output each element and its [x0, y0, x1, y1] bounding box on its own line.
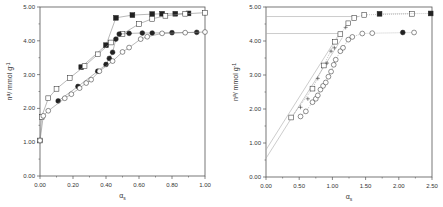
- marker-circle-open: [41, 113, 46, 118]
- series-filled-square: [377, 11, 433, 16]
- marker-square-open: [346, 21, 351, 26]
- marker-circle-open: [203, 30, 208, 35]
- x-tick-label: 1.00: [199, 182, 211, 188]
- x-axis-title: αs: [346, 193, 353, 202]
- y-tick-label: 5.00: [23, 4, 35, 10]
- series-open-circle: [298, 30, 416, 119]
- marker-circle-open: [62, 96, 67, 101]
- y-tick-label: 0.00: [23, 173, 35, 179]
- series-filled-circle: [400, 30, 405, 35]
- marker-circle-filled: [127, 31, 132, 36]
- marker-square-filled: [114, 15, 119, 20]
- marker-circle-open: [120, 50, 125, 55]
- y-tick-label: 4.00: [249, 38, 261, 44]
- x-tick-label: 0.80: [166, 182, 178, 188]
- marker-circle-filled: [400, 30, 405, 35]
- marker-square-open: [362, 12, 367, 17]
- marker-circle-open: [77, 86, 82, 91]
- series-open-square: [289, 11, 415, 120]
- marker-square-open: [183, 11, 188, 16]
- marker-circle-open: [315, 93, 320, 98]
- marker-square-open: [54, 86, 59, 91]
- y-tick-label: 3.00: [23, 72, 35, 78]
- marker-circle-open: [326, 74, 331, 79]
- x-tick-label: 0.00: [260, 183, 272, 189]
- plot-right: 0.001.002.003.004.005.000.000.501.001.50…: [231, 4, 439, 202]
- series-open-square-cross: [38, 10, 208, 143]
- series-filled-circle: [56, 30, 199, 103]
- marker-square-open: [333, 39, 338, 44]
- marker-circle-open: [145, 34, 150, 39]
- marker-circle-open: [360, 31, 365, 36]
- marker-square-open: [95, 52, 100, 57]
- x-tick-label: 1.00: [327, 183, 339, 189]
- marker-circle-open: [127, 45, 132, 50]
- marker-circle-open: [46, 108, 51, 113]
- x-tick-label: 0.20: [67, 182, 79, 188]
- marker-circle-open: [183, 30, 188, 35]
- marker-circle-open: [160, 31, 165, 36]
- marker-circle-filled: [150, 31, 155, 36]
- marker-square-open: [352, 15, 357, 20]
- x-axis-title: αs: [119, 192, 126, 201]
- marker-square-open: [310, 86, 315, 91]
- x-tick-label: 0.50: [293, 183, 305, 189]
- y-tick-label: 1.00: [249, 140, 261, 146]
- y-tick-label: 2.00: [23, 105, 35, 111]
- marker-circle-filled: [110, 50, 115, 55]
- marker-circle-open: [350, 35, 355, 40]
- x-tick-label: 2.50: [426, 183, 438, 189]
- series-open-circle: [38, 30, 208, 143]
- marker-square-open: [338, 32, 343, 37]
- fit-line: [266, 38, 342, 159]
- marker-circle-open: [89, 77, 94, 82]
- marker-circle-filled: [170, 30, 175, 35]
- marker-square-open: [137, 22, 142, 27]
- marker-square-open: [150, 16, 155, 21]
- marker-circle-filled: [56, 99, 61, 104]
- marker-square-filled: [150, 12, 155, 17]
- marker-circle-filled: [114, 37, 119, 42]
- plot-left: 0.001.002.003.004.005.000.000.200.400.60…: [5, 4, 212, 201]
- marker-square-open: [67, 76, 72, 81]
- marker-square-open: [163, 13, 168, 18]
- marker-circle-open: [303, 109, 308, 114]
- marker-circle-open: [110, 59, 115, 64]
- x-tick-label: 0.00: [34, 182, 46, 188]
- figure-root: 0.001.002.003.004.005.000.000.200.400.60…: [0, 0, 443, 207]
- fit-line: [266, 34, 339, 150]
- marker-circle-open: [84, 81, 89, 86]
- marker-circle-open: [298, 114, 303, 119]
- series-filled-square: [79, 11, 191, 70]
- marker-square-open: [289, 115, 294, 120]
- marker-circle-open: [370, 31, 375, 36]
- marker-square-open: [321, 63, 326, 68]
- y-axis-title: na/ mmol g-1: [5, 62, 15, 100]
- marker-circle-open: [323, 80, 328, 85]
- marker-square-filled: [130, 13, 135, 18]
- plot-frame: [266, 7, 432, 177]
- marker-square-filled: [173, 11, 178, 16]
- marker-circle-open: [333, 57, 338, 62]
- marker-circle-open: [341, 45, 346, 50]
- y-tick-label: 1.00: [23, 139, 35, 145]
- y-tick-label: 3.00: [249, 72, 261, 78]
- marker-circle-open: [412, 30, 417, 35]
- marker-circle-open: [69, 92, 74, 97]
- x-tick-label: 0.40: [100, 182, 112, 188]
- y-tick-label: 5.00: [249, 4, 261, 10]
- marker-circle-open: [97, 69, 102, 74]
- marker-square-open: [82, 64, 87, 69]
- y-tick-label: 4.00: [23, 38, 35, 44]
- chart-canvas: 0.001.002.003.004.005.000.000.200.400.60…: [0, 0, 443, 207]
- marker-square-open: [46, 96, 51, 101]
- marker-circle-open: [329, 69, 334, 74]
- y-tick-label: 2.00: [249, 106, 261, 112]
- marker-circle-filled: [140, 31, 145, 36]
- x-tick-label: 1.50: [360, 183, 372, 189]
- marker-square-filled: [377, 11, 382, 16]
- marker-circle-open: [38, 138, 43, 143]
- y-axis-title: na/ mmol g-1: [231, 63, 241, 101]
- marker-circle-filled: [117, 32, 122, 37]
- marker-circle-open: [138, 37, 143, 42]
